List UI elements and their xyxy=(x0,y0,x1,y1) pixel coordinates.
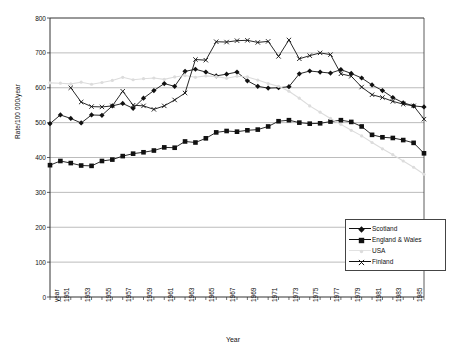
legend-marker-diamond-icon xyxy=(348,224,372,234)
legend-marker-dot-icon xyxy=(348,246,372,256)
x-tick-label: 1971 xyxy=(271,288,278,302)
legend-marker-square-icon xyxy=(348,235,372,245)
x-axis-title: Year xyxy=(0,336,466,343)
legend-marker-cross-icon xyxy=(348,257,372,267)
x-tick-label: 1965 xyxy=(208,288,215,302)
x-tick-label: 1957 xyxy=(125,288,132,302)
chart-legend: Scotland England & Wales USA Finland xyxy=(345,219,446,271)
x-tick-label: 1979 xyxy=(354,288,361,302)
x-tick-label: 1951 xyxy=(63,288,70,302)
x-tick-label: 1967 xyxy=(229,288,236,302)
x-tick-label: 1977 xyxy=(333,288,340,302)
legend-label-scotland: Scotland xyxy=(372,225,397,233)
x-tick-label: 1969 xyxy=(250,288,257,302)
x-tick-label: 1955 xyxy=(105,288,112,302)
x-tick-label: 1983 xyxy=(395,288,402,302)
legend-label-usa: USA xyxy=(372,247,385,255)
x-tick-label: 1973 xyxy=(292,288,299,302)
legend-item-scotland: Scotland xyxy=(348,223,442,234)
x-tick-label: 1981 xyxy=(375,288,382,302)
x-tick-label: 1961 xyxy=(167,288,174,302)
legend-item-usa: USA xyxy=(348,245,442,256)
chart-container: Rate/100 000/year 0100200300400500600700… xyxy=(0,0,466,351)
x-tick-label: year xyxy=(53,289,60,302)
x-tick-label: 1975 xyxy=(312,288,319,302)
x-axis-tick-labels: year195119531955195719591961196319651967… xyxy=(0,0,466,351)
legend-label-finland: Finland xyxy=(372,258,393,266)
x-tick-label: 1985 xyxy=(416,288,423,302)
x-tick-label: 1963 xyxy=(188,288,195,302)
x-tick-label: 1953 xyxy=(84,288,91,302)
x-tick-label: 1959 xyxy=(146,288,153,302)
legend-label-usa-england-wales: England & Wales xyxy=(372,236,422,244)
legend-item-england-wales: England & Wales xyxy=(348,234,442,245)
legend-item-finland: Finland xyxy=(348,256,442,267)
